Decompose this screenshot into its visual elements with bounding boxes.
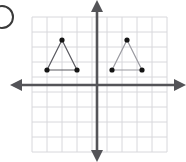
triangle-left-vertex-apex [59, 37, 64, 42]
triangle-right-vertex-apex [124, 37, 129, 42]
coordinate-plane-svg [0, 0, 186, 162]
figure-root [0, 0, 186, 162]
triangle-left-vertex-base-right [74, 67, 79, 72]
figure-background [0, 0, 186, 162]
triangle-right-vertex-base-left [109, 67, 114, 72]
triangle-right-vertex-base-right [139, 67, 144, 72]
triangle-left-vertex-base-left [44, 67, 49, 72]
